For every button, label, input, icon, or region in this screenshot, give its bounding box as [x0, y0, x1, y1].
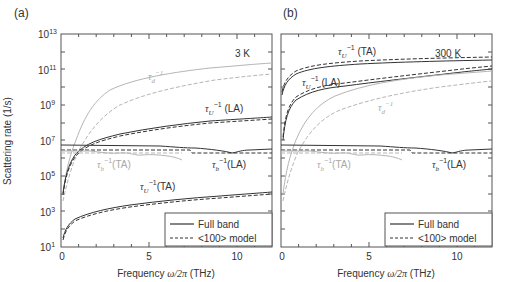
svg-text:107: 107	[40, 135, 55, 147]
svg-text:10: 10	[231, 251, 243, 262]
y-tick-labels: 1013 1011 109 107 105 103 101	[38, 28, 57, 253]
b-tau-b-LA-full	[281, 145, 492, 153]
a-label-tau-b-TA: τb−1(TA)	[97, 157, 131, 173]
panel-b-label: (b)	[283, 6, 298, 20]
svg-text:<100> model: <100> model	[418, 233, 476, 244]
a-tau-b-LA-full	[61, 145, 272, 153]
b-tau-d-model	[283, 81, 492, 201]
panel-a: 0 5 10 Frequency ω/2π (THz) 3 K τd−1 τU−	[59, 34, 272, 279]
panel-a-legend: Full band <100> model	[165, 213, 272, 246]
svg-text:105: 105	[40, 170, 55, 182]
a-label-tau-U-TA: τU−1(TA)	[140, 179, 175, 195]
svg-text:1011: 1011	[38, 64, 56, 76]
svg-text:Full band: Full band	[198, 219, 239, 230]
panel-b-temperature: 300 K	[435, 48, 461, 59]
svg-text:0: 0	[279, 251, 285, 262]
b-label-tau-b-TA: τb−1(TA)	[317, 157, 351, 173]
panel-b: 0 5 10 Frequency ω/2π (THz) 300 K τU−1 (…	[279, 34, 492, 279]
svg-text:109: 109	[40, 99, 55, 111]
b-tau-d-full	[283, 71, 492, 194]
b-label-tau-b-LA: τb−1(LA)	[432, 157, 466, 173]
a-label-tau-d: τd−1	[148, 69, 163, 85]
b-label-tau-U-TA: τU−1 (TA)	[338, 44, 376, 60]
panel-a-label: (a)	[14, 6, 29, 20]
a-label-tau-b-LA: τb−1(LA)	[212, 157, 246, 173]
svg-text:5: 5	[146, 251, 152, 262]
svg-text:1013: 1013	[38, 28, 57, 40]
figure: Scattering rate (1/s) (a) (b) 1013 1011 …	[0, 0, 506, 282]
svg-text:101: 101	[40, 241, 55, 253]
svg-text:103: 103	[40, 206, 55, 218]
panel-a-temperature: 3 K	[235, 48, 250, 59]
y-axis-label: Scattering rate (1/s)	[2, 97, 13, 185]
svg-text:10: 10	[451, 251, 463, 262]
panel-b-x-tick-labels: 0 5 10	[279, 251, 463, 262]
a-label-tau-U-LA: τU−1 (LA)	[205, 101, 243, 117]
svg-text:Full band: Full band	[418, 219, 459, 230]
svg-text:0: 0	[59, 251, 65, 262]
panel-b-legend: Full band <100> model	[385, 213, 492, 246]
panel-a-x-tick-labels: 0 5 10	[59, 251, 243, 262]
b-label-tau-U-LA: τU−1 (LA)	[302, 75, 340, 91]
svg-text:5: 5	[366, 251, 372, 262]
panel-a-x-axis-label: Frequency ω/2π (THz)	[117, 268, 215, 279]
b-label-tau-d: τd−1	[378, 100, 393, 116]
panel-b-x-axis-label: Frequency ω/2π (THz)	[337, 268, 435, 279]
svg-text:<100> model: <100> model	[198, 233, 256, 244]
